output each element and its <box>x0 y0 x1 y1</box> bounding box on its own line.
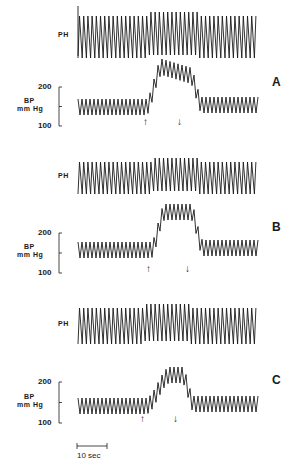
bp-unit-label: mm Hg <box>17 105 43 112</box>
time-scale-bar <box>77 443 107 449</box>
stimulus-onset-arrow-icon: ↑ <box>140 413 145 424</box>
ph-label: PH <box>58 172 69 179</box>
ytick-200: 200 <box>38 377 51 386</box>
stimulus-onset-arrow-icon: ↑ <box>146 263 151 274</box>
ph-trace <box>78 6 256 58</box>
panel-label-a: A <box>272 75 281 89</box>
bp-axis <box>59 233 62 273</box>
ph-label: PH <box>58 320 69 327</box>
bp-axis <box>59 87 62 126</box>
stimulus-offset-arrow-icon: ↓ <box>177 116 182 127</box>
stimulus-offset-arrow-icon: ↓ <box>173 413 178 424</box>
bp-trace <box>78 204 258 258</box>
ph-trace <box>78 158 256 194</box>
ytick-100: 100 <box>38 121 51 130</box>
bp-label: BP <box>24 243 35 250</box>
bp-trace <box>78 367 258 414</box>
panel-label-c: C <box>272 373 281 387</box>
time-scale-label: 10 sec <box>77 451 101 460</box>
ytick-200: 200 <box>38 228 51 237</box>
ytick-100: 100 <box>38 418 51 427</box>
bp-label: BP <box>24 97 35 104</box>
bp-label: BP <box>24 393 35 400</box>
panel-label-b: B <box>272 220 281 234</box>
bp-axis <box>59 382 62 423</box>
stimulus-offset-arrow-icon: ↓ <box>185 263 190 274</box>
ph-label: PH <box>58 31 69 38</box>
bp-trace <box>78 59 258 115</box>
stimulus-onset-arrow-icon: ↑ <box>143 116 148 127</box>
bp-unit-label: mm Hg <box>17 251 43 258</box>
ytick-100: 100 <box>38 268 51 277</box>
ytick-200: 200 <box>38 82 51 91</box>
bp-unit-label: mm Hg <box>17 401 43 408</box>
ph-trace <box>78 304 256 344</box>
